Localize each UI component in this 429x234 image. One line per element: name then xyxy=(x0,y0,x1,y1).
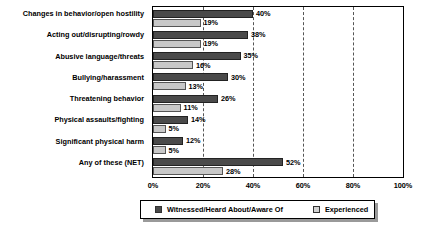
category-label: Abusive language/threats xyxy=(55,53,144,61)
x-tick-label: 0% xyxy=(148,181,159,190)
category-label: Any of these (NET) xyxy=(79,159,144,167)
bar-value-label: 40% xyxy=(256,10,271,18)
bar-group: 12%5% xyxy=(153,135,403,156)
bar-value-label: 5% xyxy=(169,125,180,133)
legend-entry-experienced: Experienced xyxy=(313,205,368,214)
x-tick-label: 60% xyxy=(296,181,311,190)
bar-experienced xyxy=(153,125,166,133)
bar-witnessed xyxy=(153,52,241,60)
x-tick-label: 80% xyxy=(346,181,361,190)
bar-value-label: 12% xyxy=(186,137,201,145)
bar-group: 30%13% xyxy=(153,71,403,92)
bar-experienced xyxy=(153,167,223,175)
bar-value-label: 19% xyxy=(204,19,219,27)
category-label: Significant physical harm xyxy=(56,138,144,146)
bar-experienced xyxy=(153,61,193,69)
category-label: Threatening behavior xyxy=(70,95,144,103)
bar-value-label: 13% xyxy=(189,83,204,91)
bar-witnessed xyxy=(153,31,248,39)
x-tick-label: 100% xyxy=(394,181,413,190)
legend-swatch-witnessed-icon xyxy=(155,206,162,213)
bar-value-label: 30% xyxy=(231,74,246,82)
category-label: Changes in behavior/open hostility xyxy=(23,10,144,18)
x-axis: 0%20%40%60%80%100% xyxy=(152,179,404,193)
category-axis-labels: Changes in behavior/open hostilityActing… xyxy=(0,6,148,178)
bar-group: 52%28% xyxy=(153,156,403,177)
bar-group: 26%11% xyxy=(153,92,403,113)
bar-experienced xyxy=(153,104,181,112)
legend-swatch-experienced-icon xyxy=(313,206,320,213)
bar-witnessed xyxy=(153,73,228,81)
legend-label-witnessed: Witnessed/Heard About/Aware Of xyxy=(167,205,283,214)
bar-value-label: 35% xyxy=(244,52,259,60)
bar-value-label: 14% xyxy=(191,116,206,124)
bar-experienced xyxy=(153,19,201,27)
category-label: Acting out/disrupting/rowdy xyxy=(47,31,144,39)
bar-value-label: 16% xyxy=(196,62,211,70)
category-label: Physical assaults/fighting xyxy=(54,116,144,124)
category-label: Bullying/harassment xyxy=(72,74,144,82)
bar-witnessed xyxy=(153,10,253,18)
bar-value-label: 11% xyxy=(184,104,198,112)
bar-experienced xyxy=(153,40,201,48)
bar-experienced xyxy=(153,82,186,90)
bar-value-label: 52% xyxy=(286,159,301,167)
bar-chart: Changes in behavior/open hostilityActing… xyxy=(0,0,429,234)
bar-witnessed xyxy=(153,137,183,145)
bar-witnessed xyxy=(153,95,218,103)
plot-area: 40%19%38%19%35%16%30%13%26%11%14%5%12%5%… xyxy=(152,6,404,178)
bar-group: 35%16% xyxy=(153,50,403,71)
legend-entry-witnessed: Witnessed/Heard About/Aware Of xyxy=(155,205,283,214)
bar-value-label: 19% xyxy=(204,40,219,48)
x-tick-label: 40% xyxy=(246,181,261,190)
bar-experienced xyxy=(153,146,166,154)
legend-label-experienced: Experienced xyxy=(325,205,368,214)
chart-legend: Witnessed/Heard About/Aware Of Experienc… xyxy=(140,200,375,219)
bar-value-label: 5% xyxy=(169,147,180,155)
bar-witnessed xyxy=(153,158,283,166)
bar-group: 38%19% xyxy=(153,28,403,49)
bar-group: 40%19% xyxy=(153,7,403,28)
bar-value-label: 26% xyxy=(221,95,236,103)
bar-value-label: 28% xyxy=(226,168,241,176)
x-tick-label: 20% xyxy=(196,181,211,190)
bar-witnessed xyxy=(153,116,188,124)
bar-value-label: 38% xyxy=(251,31,266,39)
bar-group: 14%5% xyxy=(153,113,403,134)
